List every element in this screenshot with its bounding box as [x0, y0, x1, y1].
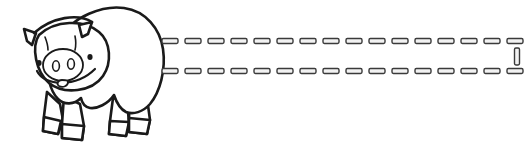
eye-left — [36, 60, 41, 66]
dash-segment — [515, 48, 520, 65]
dash-segment — [438, 69, 454, 74]
dash-segment — [346, 69, 362, 74]
dash-segment — [277, 69, 293, 74]
dash-segment — [300, 69, 316, 74]
dash-segment — [461, 69, 477, 74]
dash-segment — [231, 39, 247, 44]
dash-segment — [484, 69, 500, 74]
dash-segment — [369, 69, 385, 74]
dash-segment — [162, 69, 178, 74]
dash-segment — [323, 69, 339, 74]
canvas: Pig line drawing with dashed banner — [0, 0, 529, 152]
dash-segment — [185, 69, 201, 74]
nostril-right — [68, 59, 75, 69]
illustration-artboard — [0, 0, 529, 152]
tongue — [58, 80, 68, 87]
dash-segment — [392, 39, 408, 44]
dash-segment — [415, 69, 431, 74]
dash-segment — [254, 69, 270, 74]
eye-right — [87, 54, 92, 60]
dash-segment — [323, 39, 339, 44]
dash-segment — [208, 39, 224, 44]
dash-segment — [415, 39, 431, 44]
nostril-left — [53, 61, 60, 71]
dash-segment — [507, 39, 523, 44]
dash-segment — [208, 69, 224, 74]
hoof-1 — [129, 118, 150, 134]
dash-segment — [231, 69, 247, 74]
dash-segment — [438, 39, 454, 44]
dash-segment — [392, 69, 408, 74]
dash-segment — [277, 39, 293, 44]
dash-segment — [185, 39, 201, 44]
forehead-crease-right — [75, 36, 76, 50]
pig-snout — [43, 49, 83, 81]
dash-segment — [300, 39, 316, 44]
dash-segment — [346, 39, 362, 44]
dash-segment — [162, 39, 178, 44]
hoof-4 — [43, 117, 61, 134]
hoof-2 — [109, 121, 129, 136]
dash-segment — [461, 39, 477, 44]
dash-rule-right-cap — [515, 48, 520, 65]
dash-segment — [254, 39, 270, 44]
dash-segment — [507, 69, 523, 74]
dash-segment — [484, 39, 500, 44]
hoof-3 — [62, 124, 84, 140]
dash-segment — [369, 39, 385, 44]
